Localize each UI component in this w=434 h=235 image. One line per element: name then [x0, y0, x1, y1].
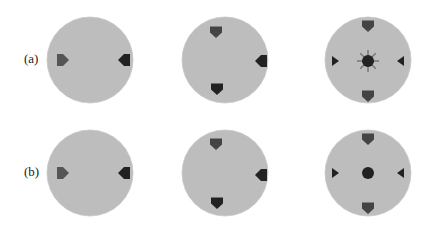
marker-star-circle-icon [362, 55, 374, 67]
disk-b-1 [47, 130, 133, 216]
disk-b-3 [325, 130, 411, 216]
disk-a-3 [325, 17, 411, 103]
row-label-b: (b) [24, 164, 39, 180]
disk-b-2 [182, 130, 268, 216]
marker-circle-icon [362, 167, 374, 179]
disk-a-1 [47, 17, 133, 103]
disk-a-2 [182, 17, 268, 103]
row-label-a: (a) [24, 51, 38, 67]
figure-canvas [0, 0, 434, 235]
